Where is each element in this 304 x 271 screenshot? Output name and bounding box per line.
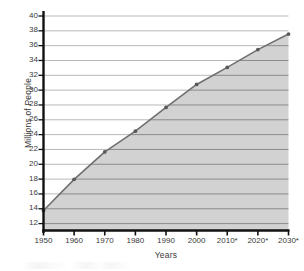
population-area-chart: Millions of People 403836343230282624222… <box>0 0 303 271</box>
x-axis-tick-labels: 1950196019701980199020002010*2020*2030* <box>0 0 303 271</box>
x-axis-title: Years <box>43 250 289 260</box>
page-edge-artifact <box>22 262 132 269</box>
x-tick-label-2030-proj: 2030* <box>269 236 304 245</box>
